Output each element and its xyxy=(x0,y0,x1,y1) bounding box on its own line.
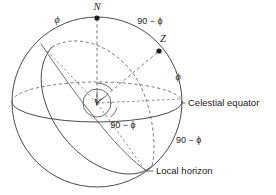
label-zenith: Z xyxy=(160,33,166,44)
label-phi-right: ϕ xyxy=(175,71,180,82)
label-local-horizon: Local horizon xyxy=(156,165,213,176)
label-celestial-equator: Celestial equator xyxy=(188,97,259,108)
label-angle-center-below: 90 − ϕ xyxy=(110,120,135,130)
equator-radius-dashed-line xyxy=(97,99,181,103)
diagram-canvas: N Z V ϕ 90 − ϕ ϕ 90 − ϕ 90 − ϕ Celestial… xyxy=(0,0,276,195)
local-horizon-back-arc xyxy=(52,41,154,166)
label-north-celestial-pole: N xyxy=(92,1,101,12)
celestial-sphere-figure: N Z V ϕ 90 − ϕ ϕ 90 − ϕ 90 − ϕ Celestial… xyxy=(0,0,276,195)
label-observer: V xyxy=(94,97,102,108)
north-celestial-pole-point xyxy=(94,15,99,20)
label-angle-lower-right: 90 − ϕ xyxy=(176,135,201,145)
label-angle-top-right: 90 − ϕ xyxy=(137,16,162,26)
label-phi-top-left: ϕ xyxy=(54,14,59,25)
angle-arc-lower xyxy=(111,108,117,117)
zenith-radius-dashed-line xyxy=(97,51,159,103)
horizon-radius-dashed-line xyxy=(42,46,97,103)
zenith-point xyxy=(156,48,161,53)
south-horizon-radius-dashed-line xyxy=(97,103,145,170)
